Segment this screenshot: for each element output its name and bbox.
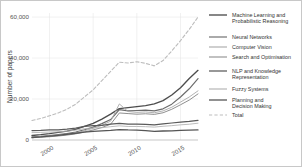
x-axis-tick-label: 2000 — [39, 144, 55, 158]
legend-label-4: NLP and Knowledge — [232, 68, 281, 74]
legend-label-6: Decision Making — [232, 103, 272, 109]
line-chart: 020,00040,00060,0002000200520102015Numbe… — [1, 1, 302, 167]
x-axis-tick-label: 2015 — [170, 144, 186, 158]
y-axis-tick-label: 60,000 — [10, 13, 29, 20]
legend-label-2: Computer Vision — [232, 44, 272, 50]
figure-container: 020,00040,00060,0002000200520102015Numbe… — [0, 0, 302, 167]
x-axis-tick-label: 2005 — [83, 144, 99, 158]
legend-label-0: Probabilistic Reasoning — [232, 18, 288, 24]
chart-plot-area: 020,00040,00060,0002000200520102015Numbe… — [1, 1, 302, 167]
series-line-1 — [32, 79, 198, 137]
legend-label-4: Representation — [232, 74, 269, 80]
legend-label-6: Planning and — [232, 97, 263, 103]
x-axis-tick-label: 2010 — [126, 144, 142, 158]
legend-label-7: Total — [232, 112, 243, 118]
legend-label-1: Neural Networks — [232, 34, 272, 40]
series-line-7 — [32, 17, 198, 120]
legend-label-0: Machine Learning and — [232, 12, 285, 18]
y-axis-tick-label: 0 — [26, 136, 30, 143]
y-axis-title: Number of papers — [6, 49, 14, 102]
legend-label-5: Fuzzy Systems — [232, 86, 269, 92]
legend-label-3: Search and Optimisation — [232, 54, 291, 60]
